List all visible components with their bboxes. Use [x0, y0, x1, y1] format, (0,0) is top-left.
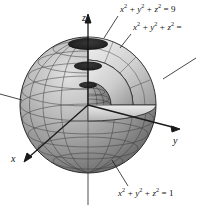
eq-inner-plus2: +: [143, 188, 153, 198]
equation-middle-sphere: x2 + y2 + z2 =: [133, 22, 182, 32]
equation-inner-sphere: x2 + y2 + z2 = 1: [118, 188, 174, 198]
leader-middle: [120, 34, 131, 48]
eq-middle-plus2: +: [158, 22, 168, 32]
eq-inner-equals: =: [159, 188, 169, 198]
equation-outer-sphere: x2 + y2 + z2 = 9: [120, 4, 176, 14]
leader-left-edge: [0, 94, 22, 100]
leader-right-edge: [163, 58, 196, 79]
y-axis-label: y: [173, 135, 177, 146]
eq-inner-plus1: +: [125, 188, 135, 198]
eq-outer-value: 9: [171, 4, 176, 14]
eq-outer-plus2: +: [145, 4, 155, 14]
sphere-diagram-figure: x2 + y2 + z2 = 9 x2 + y2 + z2 = x2 + y2 …: [0, 0, 200, 211]
leader-outer: [104, 16, 118, 38]
eq-middle-equals: =: [174, 22, 182, 32]
eq-middle-plus1: +: [140, 22, 150, 32]
z-axis-label: z: [82, 12, 86, 23]
eq-outer-equals: =: [161, 4, 171, 14]
eq-outer-plus1: +: [127, 4, 137, 14]
eq-inner-value: 1: [169, 188, 174, 198]
x-axis-label: x: [11, 153, 15, 164]
